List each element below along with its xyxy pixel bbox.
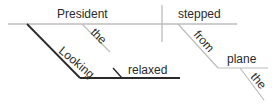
prep-object-modifier-word: the bbox=[248, 70, 270, 92]
subject-word: President bbox=[57, 7, 108, 21]
preposition-word: from bbox=[191, 28, 217, 55]
verb-word: stepped bbox=[178, 7, 221, 21]
participle-complement-word: relaxed bbox=[128, 63, 167, 77]
complement-slash bbox=[113, 68, 122, 78]
subject-modifier-word: the bbox=[88, 25, 110, 47]
prep-object-word: plane bbox=[227, 52, 257, 66]
sentence-diagram: President stepped the Looking relaxed fr… bbox=[0, 0, 276, 106]
